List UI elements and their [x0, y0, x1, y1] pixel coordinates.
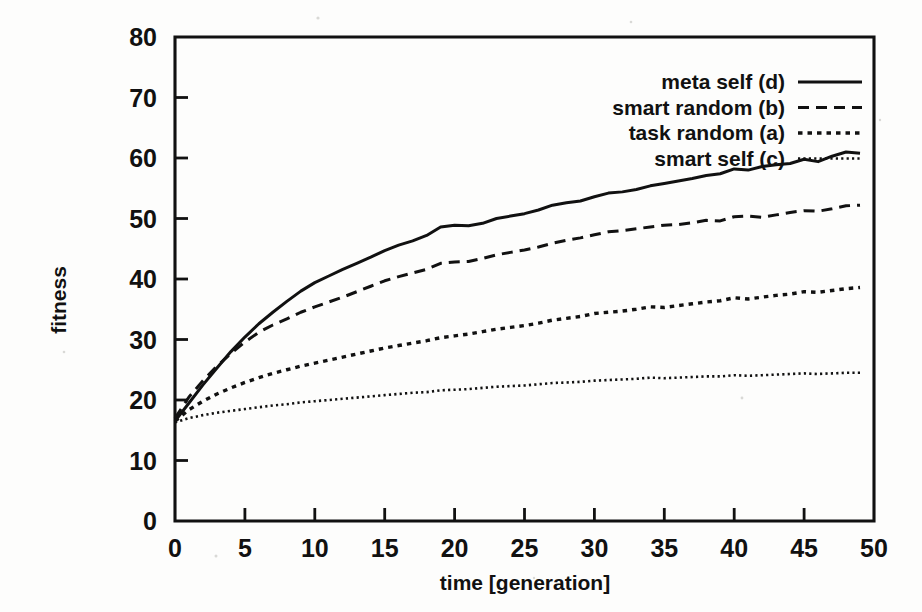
- y-tick-label: 80: [129, 23, 157, 51]
- y-tick-label: 40: [129, 265, 157, 293]
- x-tick-label: 15: [371, 534, 399, 562]
- legend-label-1: smart random (b): [612, 96, 785, 119]
- y-axis-tick-labels: 01020304050607080: [129, 23, 157, 535]
- y-tick-label: 30: [129, 326, 157, 354]
- x-tick-label: 50: [860, 534, 888, 562]
- x-axis-title: time [generation]: [440, 571, 610, 594]
- y-tick-label: 20: [129, 386, 157, 414]
- y-tick-label: 60: [129, 144, 157, 172]
- y-tick-label: 10: [129, 447, 157, 475]
- y-tick-label: 50: [129, 205, 157, 233]
- y-tick-label: 70: [129, 84, 157, 112]
- line-chart: 01020304050607080 05101520253035404550 m…: [0, 0, 922, 612]
- y-axis-title: fitness: [47, 266, 70, 334]
- x-tick-label: 40: [720, 534, 748, 562]
- legend-label-0: meta self (d): [661, 70, 785, 93]
- legend-label-3: smart self (c): [654, 147, 785, 170]
- chart-figure: 01020304050607080 05101520253035404550 m…: [0, 0, 922, 612]
- x-tick-label: 10: [301, 534, 329, 562]
- x-tick-label: 45: [790, 534, 818, 562]
- x-tick-label: 0: [168, 534, 182, 562]
- x-tick-label: 30: [580, 534, 608, 562]
- x-tick-label: 35: [650, 534, 678, 562]
- y-tick-label: 0: [143, 507, 157, 535]
- x-tick-label: 20: [441, 534, 469, 562]
- x-tick-label: 5: [238, 534, 252, 562]
- legend-label-2: task random (a): [629, 121, 785, 144]
- x-tick-label: 25: [511, 534, 539, 562]
